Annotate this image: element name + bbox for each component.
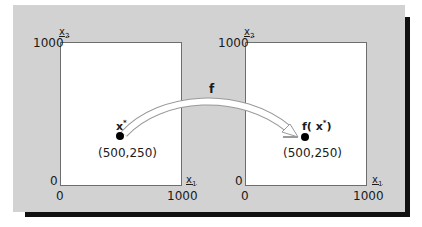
mapping-arrow [0, 0, 422, 227]
mapping-function-label: f [209, 83, 214, 95]
